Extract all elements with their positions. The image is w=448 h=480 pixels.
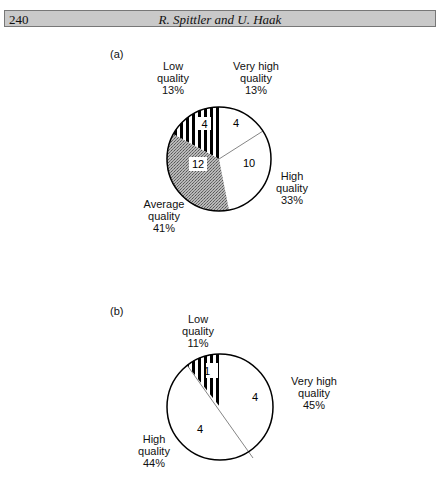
panel-b-label: (b): [110, 305, 123, 317]
pie-b: 1 4 4: [167, 354, 273, 460]
label-a-average: Average quality 41%: [134, 198, 194, 234]
label-b-low: Low quality 11%: [176, 313, 220, 349]
pie-a: 4 4 10 12: [167, 107, 271, 211]
panel-a-label: (a): [110, 48, 123, 60]
value-average: 12: [192, 158, 204, 170]
value-high: 10: [243, 157, 255, 169]
value-very-high: 4: [233, 117, 239, 129]
value-very-high: 4: [252, 391, 258, 403]
value-low: 4: [201, 118, 207, 130]
value-high: 4: [197, 423, 203, 435]
label-b-high: High quality 44%: [130, 433, 178, 469]
value-low: 1: [204, 365, 210, 377]
label-a-high: High quality 33%: [270, 170, 314, 206]
label-b-very-high: Very high quality 45%: [280, 375, 348, 411]
label-a-low: Low quality 13%: [148, 60, 198, 96]
label-a-very-high: Very high quality 13%: [222, 60, 290, 96]
